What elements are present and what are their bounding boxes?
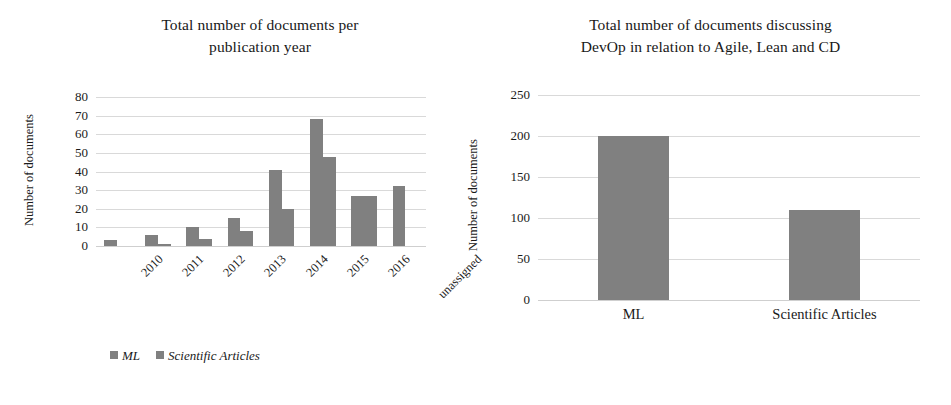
figure-container: Total number of documents per publicatio… — [0, 0, 951, 405]
y-axis-title-right: Number of documents — [466, 95, 481, 295]
x-axis-tick-label: ML — [623, 306, 645, 323]
bar — [269, 170, 282, 246]
legend-label: Scientific Articles — [168, 348, 260, 364]
y-axis-tick-label: 0 — [524, 292, 531, 308]
chart-title-left-line1: Total number of documents per — [110, 14, 410, 36]
chart-title-left: Total number of documents per publicatio… — [60, 14, 410, 59]
y-axis-title-left: Number of documents — [22, 90, 37, 250]
y-axis-ticks-left: 01020304050607080 — [46, 97, 88, 246]
bar — [364, 196, 377, 246]
legend-item: ML — [110, 348, 140, 364]
legend-item: Scientific Articles — [156, 348, 260, 364]
plot-area-left — [96, 97, 426, 246]
y-axis-tick-label: 150 — [511, 169, 531, 185]
bar — [240, 231, 253, 246]
x-axis-tick-label: 2012 — [220, 252, 248, 280]
y-axis-tick-label: 50 — [75, 145, 88, 161]
plot-area-right — [538, 95, 920, 300]
bar — [310, 119, 323, 246]
x-axis-tick-label: 2010 — [138, 252, 166, 280]
bar — [598, 136, 669, 300]
legend-left: MLScientific Articles — [110, 348, 260, 364]
bars-layer-right — [538, 95, 920, 300]
y-axis-tick-label: 80 — [75, 89, 88, 105]
x-axis-tick-label: 2016 — [385, 252, 413, 280]
y-axis-tick-label: 250 — [511, 87, 531, 103]
x-axis-tick-label: 2013 — [262, 252, 290, 280]
bar — [789, 210, 860, 300]
bar — [282, 209, 295, 246]
bar — [145, 235, 158, 246]
chart-title-right: Total number of documents discussing Dev… — [511, 14, 911, 59]
chart-title-left-line2: publication year — [110, 36, 410, 58]
y-axis-ticks-right: 050100150200250 — [484, 95, 530, 300]
bars-layer-left — [96, 97, 426, 246]
y-axis-tick-label: 60 — [75, 126, 88, 142]
chart-panel-documents-per-publication-year: Total number of documents per publicatio… — [0, 0, 470, 405]
x-axis-tick-label: 2015 — [344, 252, 372, 280]
y-axis-tick-label: 50 — [517, 251, 530, 267]
x-axis-labels-right: MLScientific Articles — [538, 306, 920, 336]
y-axis-tick-label: 20 — [75, 201, 88, 217]
chart-panel-documents-devops-agile-lean-cd: Total number of documents discussing Dev… — [470, 0, 951, 405]
legend-swatch-icon — [110, 351, 118, 359]
bar — [186, 227, 199, 246]
y-axis-tick-label: 40 — [75, 164, 88, 180]
chart-title-right-line2: DevOp in relation to Agile, Lean and CD — [511, 36, 911, 58]
bar — [158, 244, 171, 246]
y-axis-tick-label: 200 — [511, 128, 531, 144]
legend-swatch-icon — [156, 351, 164, 359]
bar — [104, 240, 117, 246]
gridline — [96, 246, 426, 247]
bar — [228, 218, 241, 246]
y-axis-tick-label: 100 — [511, 210, 531, 226]
x-axis-tick-label: Scientific Articles — [772, 306, 876, 323]
gridline — [538, 300, 920, 301]
y-axis-tick-label: 30 — [75, 182, 88, 198]
x-axis-tick-label: 2014 — [303, 252, 331, 280]
x-axis-labels-left: 2010201120122013201420152016unassigned — [96, 250, 426, 320]
chart-title-right-line1: Total number of documents discussing — [511, 14, 911, 36]
x-axis-tick-label: 2011 — [179, 252, 207, 280]
y-axis-tick-label: 0 — [82, 238, 89, 254]
legend-label: ML — [122, 348, 140, 364]
bar — [199, 239, 212, 246]
bar — [393, 186, 406, 246]
bar — [323, 157, 336, 246]
y-axis-tick-label: 70 — [75, 108, 88, 124]
y-axis-tick-label: 10 — [75, 219, 88, 235]
bar — [351, 196, 364, 246]
